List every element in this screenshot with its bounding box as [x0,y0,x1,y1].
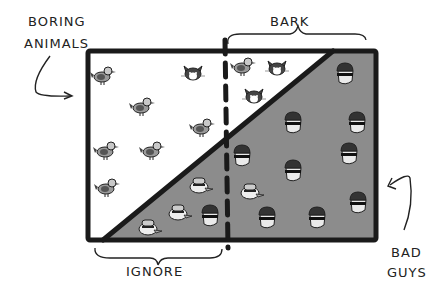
boring-animals-arrow [35,56,70,96]
bad-guys-arrow [390,176,411,230]
burglar-icon [341,143,357,164]
burglar-icon [309,207,325,228]
bark-label: BARK [270,14,309,30]
cat-icon [242,89,266,103]
cat-icon [265,61,289,75]
burglar-icon [285,112,301,133]
burglar-icon [234,145,250,166]
burglar-icon [202,205,218,226]
bad-guys-label: BAD GUYS [387,245,427,281]
cat-icon [181,66,205,80]
animals-label-line2: ANIMALS [24,36,89,52]
duck-icon [90,67,116,85]
duck-icon [129,98,155,116]
duck-icon [93,142,119,160]
duck-icon [189,119,215,137]
burglar-icon [349,112,365,133]
duck-icon [139,142,165,160]
boring-label-line1: BORING [24,14,89,30]
burglar-icon [259,207,275,228]
boring-animals-label: BORING ANIMALS [24,14,89,52]
ignore-brace [95,248,222,265]
bad-label-line1: BAD [387,245,427,261]
burglar-icon [350,192,366,213]
duck-icon [94,179,120,197]
burglar-icon [337,63,353,84]
guys-label-line2: GUYS [387,265,427,281]
duck-icon [230,58,256,76]
burglar-icon [285,160,301,181]
ignore-label: IGNORE [126,264,183,280]
